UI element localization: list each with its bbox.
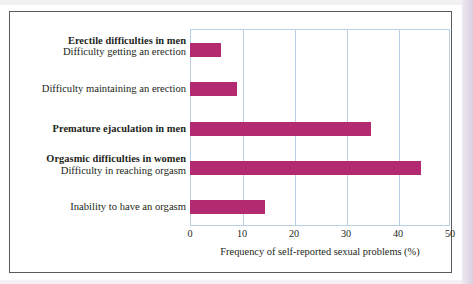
category-label: Inability to have an orgasm bbox=[70, 201, 186, 213]
category-labels: Erectile difficulties in menDifficulty g… bbox=[14, 29, 188, 226]
category-label: Premature ejaculation in men bbox=[53, 123, 186, 135]
x-tick-label: 10 bbox=[237, 228, 247, 239]
category-label: Difficulty maintaining an erection bbox=[42, 83, 186, 95]
label-group: Difficulty maintaining an erection bbox=[42, 83, 186, 95]
label-group: Inability to have an orgasm bbox=[70, 201, 186, 213]
bar bbox=[190, 82, 237, 96]
x-tick-label: 0 bbox=[187, 228, 192, 239]
bar bbox=[190, 122, 371, 136]
label-group: Premature ejaculation in men bbox=[53, 123, 186, 135]
category-label: Difficulty getting an erection bbox=[63, 46, 186, 58]
scan-edge-top bbox=[0, 0, 473, 5]
x-axis-caption: Frequency of self-reported sexual proble… bbox=[190, 246, 450, 257]
category-label: Difficulty in reaching orgasm bbox=[46, 165, 186, 177]
label-group: Erectile difficulties in menDifficulty g… bbox=[63, 35, 186, 59]
x-tick-label: 40 bbox=[393, 228, 403, 239]
category-group-heading: Orgasmic difficulties in women bbox=[46, 153, 186, 165]
x-tick-label: 50 bbox=[445, 228, 455, 239]
bar bbox=[190, 43, 221, 57]
label-group: Orgasmic difficulties in womenDifficulty… bbox=[46, 153, 186, 177]
scan-edge-bottom bbox=[0, 280, 473, 284]
scan-edge-right bbox=[462, 0, 473, 284]
category-group-heading: Erectile difficulties in men bbox=[63, 35, 186, 47]
figure-root: Erectile difficulties in menDifficulty g… bbox=[0, 0, 473, 284]
bars-layer bbox=[190, 29, 450, 226]
x-tick-label: 20 bbox=[289, 228, 299, 239]
x-tick-label: 30 bbox=[341, 228, 351, 239]
bar bbox=[190, 161, 421, 175]
bar bbox=[190, 200, 265, 214]
